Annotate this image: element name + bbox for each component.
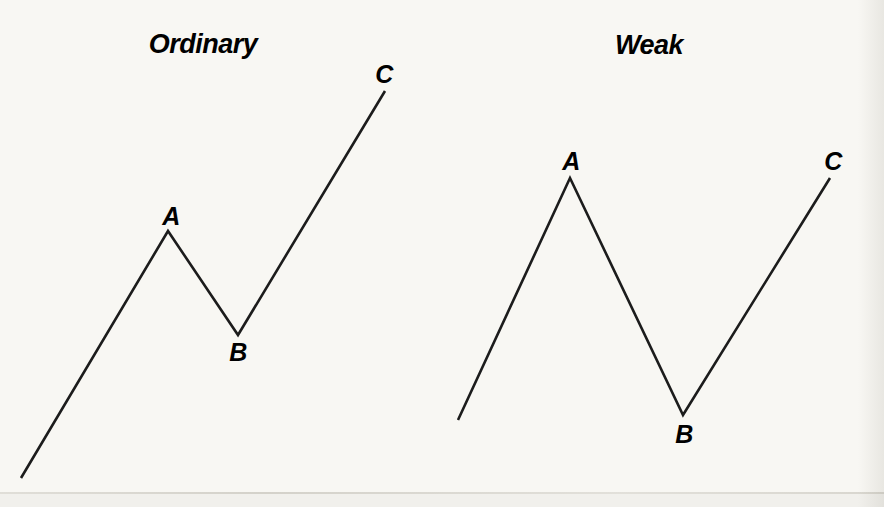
weak-vertex-label-a: A (562, 149, 580, 174)
scan-bottom-tint (0, 494, 884, 507)
weak-pattern-line (458, 178, 830, 420)
ordinary-pattern-line (21, 91, 385, 478)
weak-diagram-title: Weak (615, 32, 683, 59)
ordinary-diagram-title: Ordinary (149, 31, 258, 58)
ordinary-vertex-label-a: A (162, 204, 180, 229)
scan-artifact-line (0, 492, 884, 494)
ordinary-vertex-label-b: B (229, 340, 247, 365)
weak-vertex-label-c: C (824, 149, 842, 174)
weak-vertex-label-b: B (675, 422, 693, 447)
book-page: Ordinary Weak A B C A B C (0, 0, 884, 507)
ordinary-vertex-label-c: C (375, 62, 393, 87)
page-edge-shadow (858, 0, 884, 507)
pattern-lines-layer (0, 0, 884, 507)
